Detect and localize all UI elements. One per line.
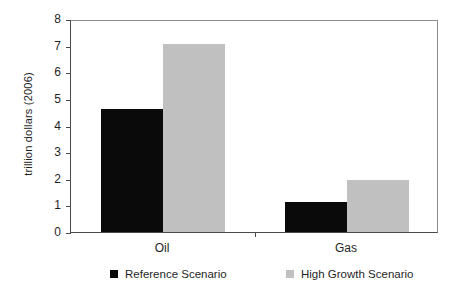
legend-item-high-growth-scenario[interactable]: High Growth Scenario [286, 268, 414, 280]
bar-gas-reference-scenario [285, 202, 347, 232]
y-tick-mark [66, 206, 71, 207]
y-tick-label: 2 [39, 172, 61, 186]
chart-legend: Reference ScenarioHigh Growth Scenario [0, 268, 476, 288]
y-axis-title: trillion dollars (2006) [22, 34, 34, 214]
x-axis-label-gas: Gas [286, 241, 406, 255]
bar-oil-reference-scenario [101, 109, 163, 232]
y-tick-label: 3 [39, 145, 61, 159]
y-tick-label: 6 [39, 65, 61, 79]
bar-gas-high-growth-scenario [347, 180, 409, 232]
y-tick-label: 7 [39, 39, 61, 53]
x-axis-label-oil: Oil [102, 241, 222, 255]
legend-item-reference-scenario[interactable]: Reference Scenario [110, 268, 227, 280]
legend-label: High Growth Scenario [301, 268, 414, 280]
y-tick-mark [66, 47, 71, 48]
x-tick-mark [255, 232, 256, 237]
legend-swatch-icon [110, 270, 118, 278]
y-tick-label: 1 [39, 198, 61, 212]
y-tick-mark [66, 153, 71, 154]
y-tick-mark [66, 233, 71, 234]
legend-swatch-icon [286, 270, 294, 278]
y-tick-mark [66, 20, 71, 21]
y-tick-label: 4 [39, 119, 61, 133]
bar-oil-high-growth-scenario [163, 44, 225, 233]
y-tick-label: 0 [39, 225, 61, 239]
y-tick-mark [66, 100, 71, 101]
plot-area: 012345678 [70, 20, 438, 233]
y-tick-label: 5 [39, 92, 61, 106]
bar-chart: trillion dollars (2006) 012345678 OilGas… [0, 0, 476, 294]
legend-label: Reference Scenario [125, 268, 227, 280]
y-tick-mark [66, 73, 71, 74]
y-tick-mark [66, 180, 71, 181]
y-tick-mark [66, 127, 71, 128]
y-tick-label: 8 [39, 12, 61, 26]
